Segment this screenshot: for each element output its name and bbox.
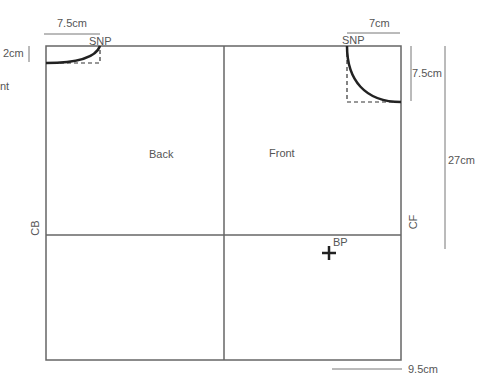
- cropped-label: nt: [0, 80, 9, 92]
- center-back-label: CB: [29, 220, 41, 235]
- cf-bust-depth-label: 27cm: [448, 154, 475, 166]
- pattern-drawing: [0, 0, 492, 382]
- back-neck-width-label: 7.5cm: [57, 17, 87, 29]
- back-snp-label: SNP: [89, 35, 112, 47]
- front-snp-label: SNP: [342, 34, 365, 46]
- front-neck-depth-label: 7.5cm: [412, 67, 442, 79]
- back-neck-depth-label: 2cm: [3, 47, 24, 59]
- front-neckline-curve: [347, 46, 401, 102]
- front-neck-guide: [347, 46, 401, 102]
- back-neckline-curve: [46, 46, 100, 63]
- bust-point-distance-label: 9.5cm: [408, 363, 438, 375]
- bust-point-label: BP: [333, 236, 348, 248]
- front-neck-width-label: 7cm: [369, 17, 390, 29]
- center-front-label: CF: [407, 215, 419, 230]
- back-panel-label: Back: [149, 148, 173, 160]
- front-panel-label: Front: [269, 147, 295, 159]
